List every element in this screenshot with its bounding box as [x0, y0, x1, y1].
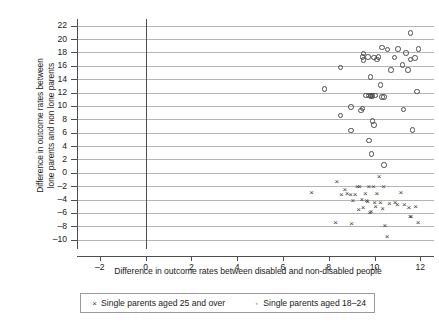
circle-marker-icon [369, 151, 375, 157]
gridline [77, 79, 434, 80]
circle-marker-icon: ◦ [251, 300, 262, 307]
y-axis-line [77, 19, 78, 249]
x-tick [420, 256, 421, 261]
y-tick-label: 12 [27, 87, 67, 97]
y-tick-label: 10 [27, 100, 67, 110]
circle-marker-icon [381, 162, 387, 168]
x-tick [100, 256, 101, 261]
y-tick-label: 2 [27, 154, 67, 164]
y-tick [71, 200, 77, 201]
circle-marker-icon [379, 45, 385, 51]
circle-marker-icon [395, 46, 401, 52]
x-axis-line [77, 256, 434, 257]
gridline [77, 159, 434, 160]
y-tick-label: –6 [27, 207, 67, 217]
circle-marker-icon [365, 54, 371, 60]
cross-marker-icon [384, 234, 390, 240]
y-tick-label: 14 [27, 74, 67, 84]
cross-marker-icon [334, 179, 340, 185]
y-tick-label: 6 [27, 127, 67, 137]
cross-marker-icon [379, 206, 385, 212]
circle-marker-icon [416, 46, 422, 52]
y-tick-label: 0 [27, 167, 67, 177]
gridline [77, 119, 434, 120]
cross-marker-icon [381, 184, 387, 190]
circle-marker-icon [338, 113, 344, 119]
y-tick [71, 186, 77, 187]
circle-marker-icon [368, 74, 374, 80]
circle-marker-icon [348, 104, 354, 110]
y-tick [71, 39, 77, 40]
gridline [77, 133, 434, 134]
cross-marker-icon [338, 192, 344, 198]
x-tick [283, 256, 284, 261]
y-tick-label: 8 [27, 114, 67, 124]
circle-marker-icon [322, 86, 328, 92]
cross-marker-icon [308, 190, 314, 196]
y-tick [71, 106, 77, 107]
y-tick [71, 26, 77, 27]
legend-entry-aged-25-and-over: × Single parents aged 25 and over [89, 298, 225, 308]
y-tick-label: 18 [27, 47, 67, 57]
chart-legend: × Single parents aged 25 and over ◦ Sing… [80, 293, 375, 313]
y-tick-label: –8 [27, 221, 67, 231]
gridline [77, 146, 434, 147]
cross-marker-icon [368, 209, 374, 215]
circle-marker-icon [412, 55, 418, 61]
x-tick [329, 256, 330, 261]
cross-marker-icon [349, 221, 355, 227]
x-tick [375, 256, 376, 261]
circle-marker-icon [408, 30, 414, 36]
y-tick [71, 226, 77, 227]
gridline [77, 66, 434, 67]
cross-marker-icon [415, 220, 421, 226]
y-tick-label: 4 [27, 141, 67, 151]
plot-area [77, 19, 434, 249]
y-tick-label: 20 [27, 34, 67, 44]
circle-marker-icon [403, 50, 409, 56]
y-tick-label: 22 [27, 20, 67, 30]
gridline [77, 240, 434, 241]
y-tick [71, 133, 77, 134]
gridline [77, 39, 434, 40]
circle-marker-icon [338, 65, 344, 71]
cross-marker-icon [408, 214, 414, 220]
circle-marker-icon [388, 67, 394, 73]
x-tick [237, 256, 238, 261]
y-tick [71, 146, 77, 147]
legend-label: Single parents aged 18–24 [263, 298, 366, 308]
circle-marker-icon [363, 93, 369, 99]
gridline [77, 52, 434, 53]
cross-marker-icon [350, 198, 356, 204]
cross-marker-icon [413, 204, 419, 210]
cross-marker-icon [398, 190, 404, 196]
cross-marker-icon: × [89, 299, 100, 308]
cross-marker-icon [376, 174, 382, 180]
gridline [77, 26, 434, 27]
x-axis-label: Difference in outcome rates between disa… [62, 266, 434, 276]
circle-marker-icon [400, 62, 406, 68]
y-tick [71, 93, 77, 94]
cross-marker-icon [333, 220, 339, 226]
circle-marker-icon [372, 93, 378, 99]
gridline [77, 213, 434, 214]
y-tick-label: –2 [27, 181, 67, 191]
y-tick [71, 119, 77, 120]
circle-marker-icon [392, 55, 398, 61]
gridline [77, 226, 434, 227]
y-tick-label: –10 [27, 234, 67, 244]
circle-marker-icon [371, 122, 377, 128]
y-tick [71, 52, 77, 53]
legend-entry-aged-18-24: ◦ Single parents aged 18–24 [251, 298, 366, 308]
scatter-chart-figure: Difference in outcome rates between lone… [0, 0, 439, 327]
y-tick-label: –4 [27, 194, 67, 204]
circle-marker-icon [378, 82, 384, 88]
cross-marker-icon [382, 223, 388, 229]
gridline [77, 106, 434, 107]
circle-marker-icon [410, 127, 416, 133]
circle-marker-icon [366, 138, 372, 144]
legend-label: Single parents aged 25 and over [101, 298, 225, 308]
cross-marker-icon [357, 184, 363, 190]
y-tick [71, 173, 77, 174]
y-tick [71, 66, 77, 67]
